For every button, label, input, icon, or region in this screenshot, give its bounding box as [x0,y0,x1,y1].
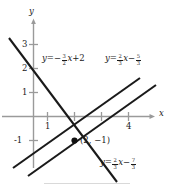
intersection-point-marker [71,137,77,143]
eq1-intercept: 2 [79,53,84,63]
eq3-slope-denominator: 3 [112,164,117,171]
eq1-sign: − [54,53,61,63]
y-axis-label: y [29,7,34,16]
eq3-equals: = [105,157,112,167]
y-tick-label-2: 2 [22,64,27,73]
eq3-minus: − [123,157,130,167]
equation-label-line-1: y=−32x+2 [42,54,85,66]
x-axis-label: x [159,109,164,118]
intersection-point-label: (2, −1) [80,136,110,145]
eq2-slope-fraction: 23 [117,54,122,66]
y-tick-label-3: 3 [22,40,27,49]
eq2-minus: − [128,53,135,63]
eq2-intercept-fraction: 53 [136,54,141,66]
x-tick-label-4: 4 [126,122,131,131]
graph-figure: y x 3 2 1 -1 1 4 y=−32x+2 y=23x−53 y=23x… [0,0,171,185]
x-axis [2,114,155,119]
line-2 [13,78,140,168]
eq2-intercept-denominator: 3 [136,60,141,67]
equation-label-line-3: y=23x−73 [100,158,137,170]
eq3-intercept-denominator: 3 [131,164,136,171]
eq1-equals: = [47,53,54,63]
eq2-equals: = [110,53,117,63]
y-tick-label-neg1: -1 [14,136,22,145]
eq3-slope-fraction: 23 [112,158,117,170]
eq3-intercept-fraction: 73 [131,158,136,170]
x-tick-label-1: 1 [45,122,50,131]
eq2-slope-denominator: 3 [117,60,122,67]
y-axis [31,19,36,169]
equation-label-line-2: y=23x−53 [105,54,142,66]
y-tick-label-1: 1 [22,88,27,97]
